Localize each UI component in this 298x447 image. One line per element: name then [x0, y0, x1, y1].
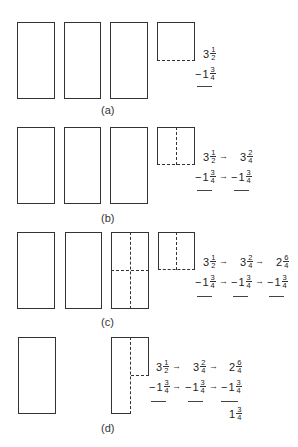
whole-unit-rect-1 [17, 22, 55, 99]
whole-unit-rect-2 [64, 22, 101, 99]
whole-unit-rect-1 [17, 232, 55, 309]
minuend-d-1: 3 12 [156, 359, 169, 374]
minuend-d-3: 2 64 [229, 359, 242, 374]
subtrahend-d-2: − 1 34 [185, 379, 206, 394]
arrow-icon: → [172, 361, 181, 371]
caption-a: (a) [101, 104, 114, 116]
caption-b: (b) [101, 212, 114, 224]
whole-unit-rect-2 [64, 127, 101, 204]
arrow-icon: → [209, 381, 218, 391]
subtrahend-a: − 1 34 [195, 66, 216, 81]
subtrahend-c-2: − 1 34 [231, 274, 252, 289]
subtrahend-d-1: − 1 34 [149, 379, 170, 394]
quarter-divider [176, 127, 177, 165]
minuend-b-2: 3 24 [240, 149, 253, 164]
sum-rule-a [197, 86, 212, 87]
half-unit-square [157, 22, 195, 61]
sum-rule-d-1 [151, 401, 166, 402]
arrow-icon: → [255, 276, 264, 286]
minuend-c-2: 3 24 [240, 254, 253, 269]
arrow-icon: → [255, 256, 264, 266]
whole-unit-rect-1 [17, 127, 55, 204]
subtrahend-b-2: − 1 34 [231, 169, 252, 184]
minuend-c-1: 3 12 [203, 254, 216, 269]
sum-rule-c-2 [233, 296, 248, 297]
caption-d: (d) [101, 422, 114, 434]
caption-c: (c) [101, 316, 114, 328]
sum-rule-c-3 [269, 296, 284, 297]
arrow-icon: → [219, 171, 228, 181]
arrow-icon: → [219, 276, 228, 286]
minuend-a: 3 12 [203, 46, 216, 61]
sum-rule-d-2 [188, 401, 203, 402]
subtrahend-b-1: − 1 34 [195, 169, 216, 184]
subtrahend-c-3: − 1 34 [267, 274, 288, 289]
minuend-c-3: 2 64 [276, 254, 289, 269]
sum-rule-b-2 [234, 190, 249, 191]
sum-rule-d-3 [221, 401, 238, 402]
subtrahend-d-3: − 1 34 [221, 379, 242, 394]
minuend-d-2: 3 24 [193, 359, 206, 374]
regroup-vertical-divider [130, 337, 131, 414]
whole-unit-rect-2 [65, 232, 102, 309]
subtrahend-c-1: − 1 34 [195, 274, 216, 289]
whole-unit-rect-3 [110, 127, 148, 204]
sum-rule-b-1 [197, 190, 212, 191]
arrow-icon: → [209, 361, 218, 371]
arrow-icon: → [172, 381, 181, 391]
whole-unit-rect-3 [110, 22, 148, 99]
arrow-icon: → [219, 151, 228, 161]
sum-rule-c-1 [197, 296, 212, 297]
regrouped-bottom-left-rect [111, 375, 131, 414]
arrow-icon: → [219, 256, 228, 266]
minuend-b-1: 3 12 [203, 149, 216, 164]
regroup-horizontal-divider [111, 270, 149, 271]
whole-unit-rect-1 [18, 337, 56, 414]
difference-result: 1 34 [229, 406, 242, 421]
quarter-divider [176, 232, 177, 270]
